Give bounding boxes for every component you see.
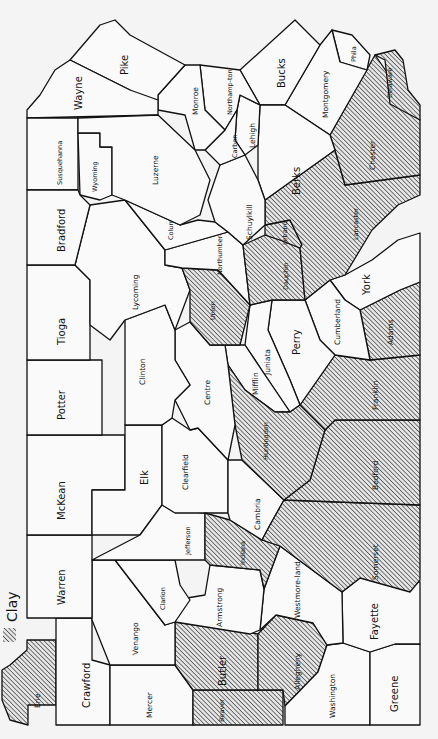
svg-text:Warren: Warren <box>56 569 67 605</box>
svg-text:Somerset: Somerset <box>371 544 380 580</box>
svg-text:Armstrong: Armstrong <box>215 588 224 627</box>
county-tioga: Tioga <box>27 265 90 360</box>
svg-text:Huntingdon: Huntingdon <box>262 422 270 460</box>
svg-text:Mifflin: Mifflin <box>251 372 260 395</box>
svg-text:Luzerne: Luzerne <box>151 155 160 185</box>
svg-text:Dauphin: Dauphin <box>282 263 290 290</box>
legend-swatch-icon <box>3 628 16 642</box>
svg-text:Delaware: Delaware <box>386 67 394 98</box>
pennsylvania-clay-map: Erie Crawford Mercer Beaver Butler Alleg… <box>0 0 438 739</box>
county-potter: Potter <box>27 360 102 435</box>
svg-text:Clinton: Clinton <box>138 358 147 385</box>
svg-text:Mercer: Mercer <box>145 691 154 718</box>
svg-text:Juniata: Juniata <box>263 349 272 376</box>
svg-text:Allegheny: Allegheny <box>293 652 302 690</box>
svg-text:Pike: Pike <box>119 55 130 75</box>
svg-text:Potter: Potter <box>56 389 67 420</box>
svg-text:Monroe: Monroe <box>191 87 200 115</box>
svg-text:Greene: Greene <box>389 676 400 712</box>
county-beaver: Beaver <box>193 690 283 725</box>
svg-text:York: York <box>361 274 372 296</box>
svg-text:Lancaster: Lancaster <box>352 208 360 240</box>
svg-text:Jefferson: Jefferson <box>184 526 192 556</box>
svg-text:Berks: Berks <box>291 167 302 195</box>
svg-text:Wayne: Wayne <box>73 76 84 110</box>
svg-text:Perry: Perry <box>291 329 302 355</box>
svg-text:Franklin: Franklin <box>371 380 380 410</box>
svg-text:Phila: Phila <box>350 46 358 62</box>
svg-text:Crawford: Crawford <box>81 663 92 708</box>
svg-text:Adams: Adams <box>386 319 395 345</box>
svg-text:Cumberland: Cumberland <box>333 299 342 345</box>
svg-text:Centre: Centre <box>203 380 212 405</box>
svg-text:McKean: McKean <box>56 481 67 520</box>
svg-text:Northamp-ton: Northamp-ton <box>226 69 234 115</box>
svg-text:Susquehanna: Susquehanna <box>56 141 64 185</box>
svg-text:Fayette: Fayette <box>369 603 380 640</box>
svg-text:Union: Union <box>209 301 217 320</box>
svg-text:Bucks: Bucks <box>276 58 287 88</box>
svg-text:Westmore-land: Westmore-land <box>293 561 302 618</box>
svg-text:Lehigh: Lehigh <box>248 123 257 148</box>
svg-text:Clarion: Clarion <box>159 587 167 610</box>
svg-text:Montgomery: Montgomery <box>321 70 330 118</box>
svg-text:Chester: Chester <box>368 140 377 170</box>
svg-text:Bedford: Bedford <box>371 460 380 490</box>
svg-text:Butler: Butler <box>217 655 228 686</box>
svg-text:Lycoming: Lycoming <box>131 274 140 310</box>
svg-text:Wyoming: Wyoming <box>91 161 99 192</box>
svg-text:Elk: Elk <box>139 470 150 485</box>
county-mercer: Mercer <box>110 665 193 725</box>
svg-text:Bradford: Bradford <box>56 209 67 252</box>
county-greene: Greene <box>370 644 420 725</box>
svg-text:Carbon: Carbon <box>231 135 239 158</box>
county-erie: Erie <box>2 640 56 725</box>
county-warren: Warren <box>27 535 92 618</box>
legend-label: Clay <box>4 591 20 622</box>
svg-text:Venango: Venango <box>131 622 140 655</box>
legend: Clay <box>3 591 20 642</box>
svg-text:Schuylkill: Schuylkill <box>245 204 254 240</box>
svg-text:Tioga: Tioga <box>56 318 67 346</box>
svg-text:Indiana: Indiana <box>239 541 247 565</box>
svg-text:Clearfield: Clearfield <box>181 454 190 490</box>
svg-text:Erie: Erie <box>33 693 42 708</box>
svg-text:Cambria: Cambria <box>253 498 262 530</box>
svg-text:Washington: Washington <box>328 674 337 718</box>
svg-text:Beaver: Beaver <box>218 699 226 722</box>
county-susquehanna: Susquehanna <box>27 118 78 190</box>
